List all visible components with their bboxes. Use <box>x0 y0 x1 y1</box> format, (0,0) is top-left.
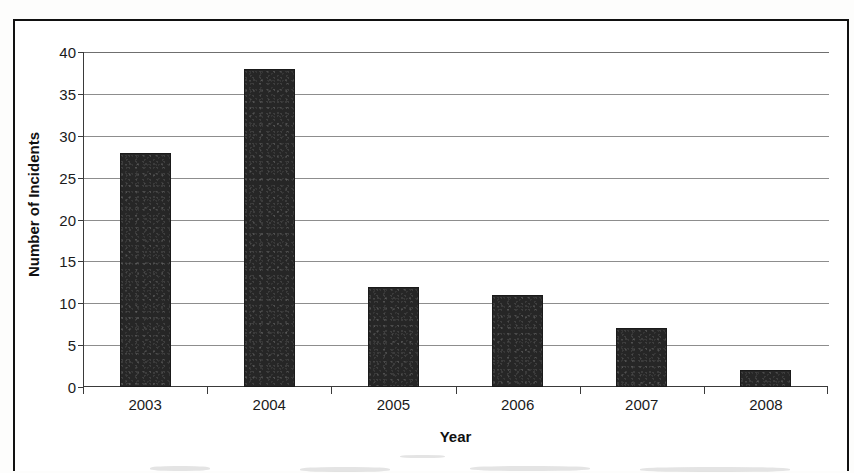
scan-artifact <box>470 466 590 471</box>
bar <box>492 295 543 387</box>
x-tick-label: 2005 <box>377 396 410 413</box>
x-tick-label: 2007 <box>625 396 658 413</box>
scanned-page: Number of Incidents 0510152025303540 200… <box>0 0 854 473</box>
y-tick-label: 25 <box>59 169 76 186</box>
y-axis-tick-labels: 0510152025303540 <box>40 52 76 387</box>
y-tick-label: 30 <box>59 127 76 144</box>
y-tick-label: 0 <box>68 379 76 396</box>
y-tick-label: 10 <box>59 295 76 312</box>
x-tick-mark <box>83 387 84 394</box>
bar <box>616 328 667 387</box>
y-tick-label: 5 <box>68 337 76 354</box>
bar-series <box>83 52 828 387</box>
bar-chart: Number of Incidents 0510152025303540 200… <box>0 0 854 473</box>
y-axis-title: Number of Incidents <box>25 85 42 325</box>
x-tick-mark <box>827 387 828 394</box>
bar <box>120 153 171 388</box>
x-tick-label: 2008 <box>749 396 782 413</box>
scan-artifact <box>150 466 210 471</box>
x-axis-ticks <box>83 387 828 395</box>
x-tick-label: 2003 <box>128 396 161 413</box>
x-axis-title: Year <box>83 428 828 445</box>
y-tick-label: 20 <box>59 211 76 228</box>
x-tick-mark <box>331 387 332 394</box>
x-tick-label: 2006 <box>501 396 534 413</box>
scan-artifact <box>400 455 445 458</box>
x-tick-mark <box>704 387 705 394</box>
x-tick-mark <box>580 387 581 394</box>
x-tick-mark <box>207 387 208 394</box>
bar <box>740 370 791 387</box>
x-axis-tick-labels: 200320042005200620072008 <box>83 396 828 418</box>
scan-artifact <box>300 467 390 472</box>
y-tick-label: 15 <box>59 253 76 270</box>
x-tick-mark <box>456 387 457 394</box>
x-tick-label: 2004 <box>253 396 286 413</box>
y-tick-label: 40 <box>59 44 76 61</box>
scan-artifact <box>640 467 790 472</box>
bar <box>244 69 295 387</box>
y-tick-label: 35 <box>59 85 76 102</box>
bar <box>368 287 419 388</box>
